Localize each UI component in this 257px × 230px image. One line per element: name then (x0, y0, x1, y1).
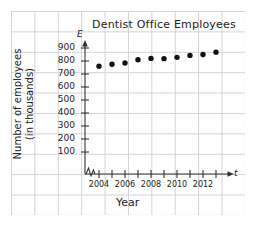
data-point (200, 52, 205, 57)
x-axis-break-symbol (86, 168, 95, 176)
data-point (109, 62, 114, 67)
y-axis-tick-label: 300 (51, 120, 75, 130)
data-point (161, 56, 166, 61)
data-point (96, 63, 101, 68)
y-axis-tick-label: 900 (51, 42, 75, 52)
x-axis-tick-label: 2008 (138, 180, 164, 189)
y-axis-tick-label: 200 (51, 133, 75, 143)
x-axis-tick-label: 2006 (112, 180, 138, 189)
y-axis-tick-label: 700 (51, 68, 75, 78)
chart-figure: Dentist Office Employees E t Year Number… (0, 0, 257, 230)
data-points (96, 49, 218, 68)
data-point (148, 56, 153, 61)
data-point (213, 49, 218, 54)
plot-area (0, 0, 257, 230)
x-axis-tick-label: 2004 (86, 180, 112, 189)
x-axis-tick-label: 2010 (164, 180, 190, 189)
axes (82, 40, 234, 177)
y-axis-tick-label: 400 (51, 107, 75, 117)
y-axis-tick-label: 500 (51, 94, 75, 104)
data-point (122, 60, 127, 65)
x-axis-tick-label: 2012 (190, 180, 216, 189)
y-axis-tick-label: 100 (51, 146, 75, 156)
y-axis-tick-label: 600 (51, 81, 75, 91)
x-axis-arrowhead (228, 171, 235, 177)
y-axis-arrowhead (82, 40, 88, 47)
data-point (187, 53, 192, 58)
y-axis-tick-label: 800 (51, 55, 75, 65)
data-point (135, 57, 140, 62)
data-point (174, 55, 179, 60)
